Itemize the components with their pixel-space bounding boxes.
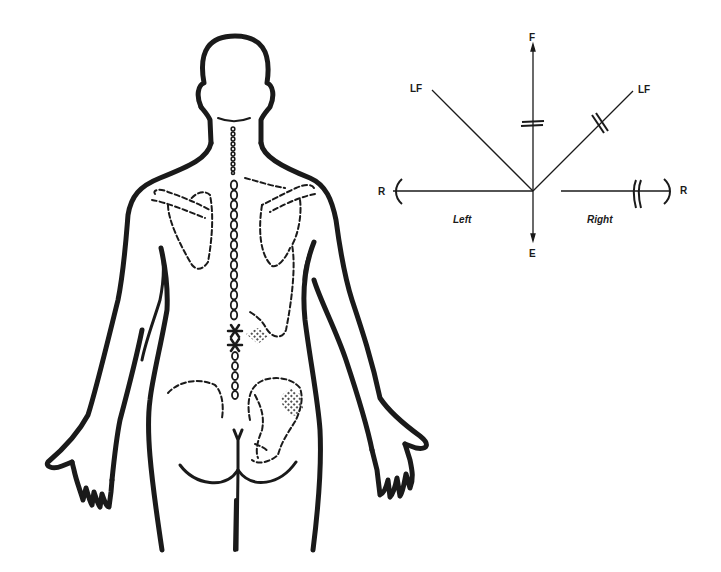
extension-arrowhead [531, 234, 535, 241]
left-scapula-outline [168, 192, 212, 268]
lateral-flexion-left-line [432, 90, 533, 191]
lesion-markers [228, 325, 242, 351]
motion-diagram [393, 44, 670, 241]
label-lateral-flexion-left: LF [410, 83, 422, 94]
label-extension: E [529, 248, 536, 259]
label-rotation-right: R [680, 185, 688, 196]
shaded-lumbar-region [246, 328, 268, 344]
lateral-flexion-right-line [533, 91, 633, 191]
left-arm-inner [112, 330, 142, 480]
left-ilium-outline [168, 381, 223, 418]
right-arm-inner [314, 280, 372, 450]
body-chart-figure: F E LF LF R R Left Right [0, 0, 721, 572]
jaw-line [218, 118, 250, 121]
thoracic-lumbar-spine [231, 181, 238, 400]
left-clavicle-outline [152, 190, 210, 218]
gluteal-curve-left [180, 465, 238, 483]
gluteal-curve-right [238, 462, 296, 482]
right-clavicle-outline [262, 185, 315, 212]
leg-inner-left [235, 500, 236, 550]
asterisk-icon [228, 339, 242, 351]
label-side-left: Left [453, 214, 472, 225]
head-left-side [201, 107, 211, 143]
label-flexion: F [529, 32, 535, 43]
cervical-spine [231, 127, 235, 175]
left-arm-outer [47, 143, 211, 468]
left-torso-inner [149, 248, 168, 550]
right-hand [372, 444, 412, 497]
asterisk-icon [228, 325, 242, 337]
label-rotation-left: R [378, 186, 386, 197]
left-hand [72, 462, 112, 507]
rotation-right-restriction-mark [634, 180, 641, 208]
flexion-arrowhead [531, 44, 535, 51]
label-lateral-flexion-right: LF [638, 84, 650, 95]
label-side-right: Right [587, 214, 613, 225]
